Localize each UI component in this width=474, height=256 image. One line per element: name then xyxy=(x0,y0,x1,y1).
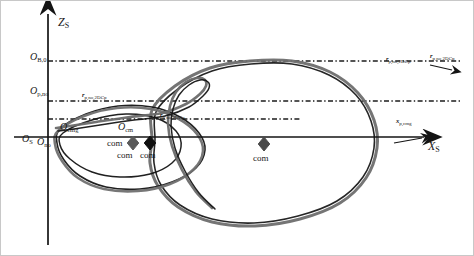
arrow-marker-upper-right xyxy=(430,65,452,70)
com-marker-left-gray-text: com xyxy=(107,139,123,148)
vector-label-left: rp,no,2DCp xyxy=(82,92,106,100)
origin-label-upper: OB,0 xyxy=(30,52,46,64)
arrow-marker-group xyxy=(394,65,452,143)
origin-label-inner: Ono xyxy=(37,137,51,149)
origin-label-middle: Op,no xyxy=(30,86,49,98)
origin-label: OS xyxy=(22,134,33,146)
com-marker-left-under-text: com xyxy=(117,151,133,160)
figure-canvas: ZS XS OS OB,0Op,noOcmgOnoOcm rp,no,2DCpr… xyxy=(0,0,474,256)
com-marker-left-gray xyxy=(127,136,138,150)
com-marker-center xyxy=(258,137,269,151)
arrow-marker-x-axis-tip xyxy=(394,138,422,143)
com-marker-left-dark-text: com xyxy=(140,151,156,160)
z-axis-label: ZS xyxy=(58,16,69,30)
origin-label-mid-right: Ocm xyxy=(118,122,133,134)
vector-label-right-a: rp,no,2DCp xyxy=(386,56,410,64)
reference-line-group xyxy=(48,61,460,119)
vector-label-x-axis: xp,cmg xyxy=(396,118,412,126)
trajectory-curve-group xyxy=(54,60,377,226)
vector-label-right-b: rp,no,2DCp xyxy=(430,53,454,61)
vector-label-center: rp,no,2DCp xyxy=(160,112,184,120)
x-axis-label: XS xyxy=(428,140,440,154)
origin-label-lower: Ocmg xyxy=(60,122,78,134)
com-marker-center-text: com xyxy=(253,154,269,163)
